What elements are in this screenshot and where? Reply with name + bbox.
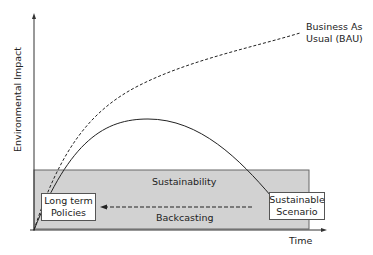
sustainability-label: Sustainability [152, 176, 216, 188]
start-box-line1: Long term [44, 195, 93, 207]
end-box-line2: Scenario [269, 206, 325, 218]
end-box-line1: Sustainable [269, 194, 325, 206]
time-label: Time [289, 235, 312, 247]
y-axis-label: Environmental Impact [12, 45, 23, 155]
long-term-policies-box: Long term Policies [41, 193, 96, 221]
bau-label-line2: Usual (BAU) [306, 33, 363, 45]
start-box-line2: Policies [44, 207, 93, 219]
sustainable-scenario-box: Sustainable Scenario [269, 192, 325, 220]
x-axis-arrow-icon [321, 228, 327, 232]
bau-label-line1: Business As [306, 21, 362, 33]
y-axis-arrow-icon [32, 13, 36, 19]
backcasting-label: Backcasting [156, 212, 213, 224]
